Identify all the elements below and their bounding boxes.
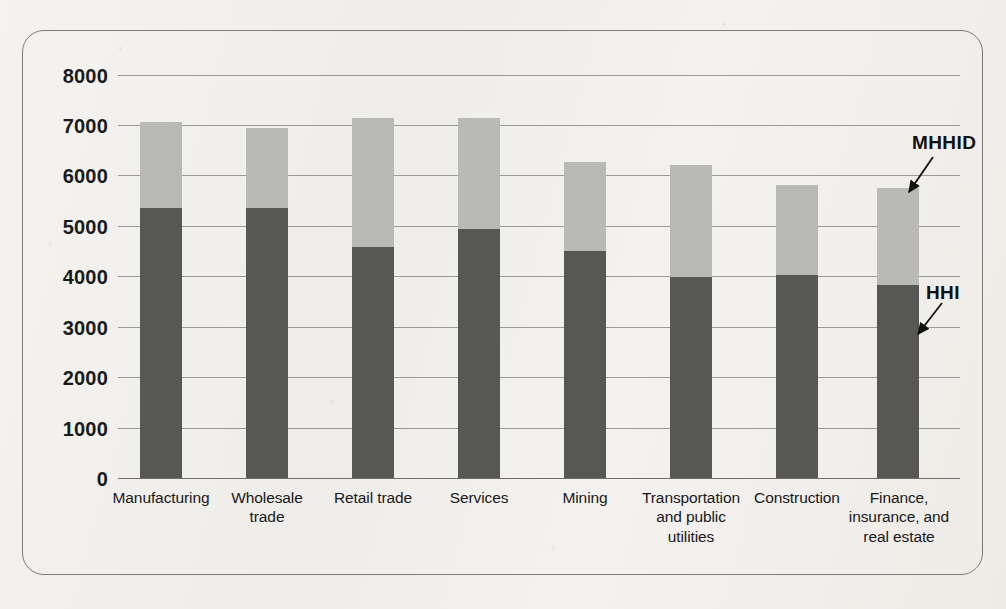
y-axis-tick-1000: 1000: [0, 419, 108, 439]
x-axis-label-line: utilities: [628, 527, 754, 546]
x-axis-label-line: trade: [212, 507, 322, 526]
y-axis-tick-3000: 3000: [0, 318, 108, 338]
x-axis-label-wholesale-trade: Wholesale trade: [212, 488, 322, 527]
bar-segment-hhi: [564, 251, 606, 478]
y-axis-tick-5000: 5000: [0, 217, 108, 237]
x-axis-label-line: Retail trade: [318, 488, 428, 507]
bar-segment-hhi: [140, 208, 182, 478]
x-axis-label-line: Construction: [742, 488, 852, 507]
arrow-to-hhi-segment: [918, 303, 942, 334]
bar-segment-hhi: [246, 208, 288, 478]
bar-segment-hhi: [670, 277, 712, 478]
bar-segment-mhhid: [877, 188, 919, 285]
gridline-8000: [118, 75, 960, 76]
y-axis-tick-2000: 2000: [0, 368, 108, 388]
gridline-1000: [118, 428, 960, 429]
bar-transportation-and-public-utilities: [670, 165, 712, 478]
bar-segment-hhi: [877, 285, 919, 478]
y-axis-tick-6000: 6000: [0, 166, 108, 186]
x-axis-label-transportation-and-public-utilities: Transportation and public utilities: [628, 488, 754, 546]
gridline-7000: [118, 125, 960, 126]
y-axis-tick-8000: 8000: [0, 66, 108, 86]
bar-segment-mhhid: [246, 128, 288, 208]
bar-segment-mhhid: [670, 165, 712, 277]
y-axis-tick-7000: 7000: [0, 116, 108, 136]
gridline-3000: [118, 327, 960, 328]
stacked-bar-chart: 8000 7000 6000 5000 4000 3000 2000 1000 …: [0, 0, 1006, 609]
gridline-5000: [118, 226, 960, 227]
bar-segment-mhhid: [776, 185, 818, 275]
x-axis-label-services: Services: [424, 488, 534, 507]
x-axis-label-line: Services: [424, 488, 534, 507]
x-axis-label-line: Manufacturing: [96, 488, 226, 507]
gridline-4000: [118, 276, 960, 277]
annotation-label-hhi: HHI: [926, 282, 960, 304]
bar-segment-mhhid: [140, 122, 182, 208]
bar-mining: [564, 162, 606, 478]
bar-wholesale-trade: [246, 128, 288, 478]
bar-finance-insurance-and-real-estate: [877, 188, 919, 478]
bar-segment-mhhid: [352, 118, 394, 247]
x-axis-label-line: Finance,: [840, 488, 958, 507]
bar-manufacturing: [140, 122, 182, 478]
gridline-6000: [118, 175, 960, 176]
bar-retail-trade: [352, 118, 394, 478]
bar-segment-mhhid: [458, 118, 500, 229]
axis-baseline-0: [118, 478, 960, 479]
bar-construction: [776, 185, 818, 478]
bar-segment-hhi: [776, 275, 818, 478]
x-axis-label-mining: Mining: [530, 488, 640, 507]
x-axis-label-line: Mining: [530, 488, 640, 507]
x-axis-label-line: Wholesale: [212, 488, 322, 507]
x-axis-label-manufacturing: Manufacturing: [96, 488, 226, 507]
x-axis-label-retail-trade: Retail trade: [318, 488, 428, 507]
x-axis-label-line: and public: [628, 507, 754, 526]
y-axis-tick-4000: 4000: [0, 267, 108, 287]
x-axis-label-construction: Construction: [742, 488, 852, 507]
bar-services: [458, 118, 500, 478]
bar-segment-hhi: [352, 247, 394, 478]
y-axis-tick-0: 0: [0, 469, 108, 489]
bar-segment-hhi: [458, 229, 500, 478]
x-axis-label-finance-insurance-and-real-estate: Finance, insurance, and real estate: [840, 488, 958, 546]
gridline-2000: [118, 377, 960, 378]
x-axis-label-line: Transportation: [628, 488, 754, 507]
bar-segment-mhhid: [564, 162, 606, 251]
annotation-label-mhhid: MHHID: [912, 132, 976, 154]
x-axis-label-line: real estate: [840, 527, 958, 546]
x-axis-label-line: insurance, and: [840, 507, 958, 526]
